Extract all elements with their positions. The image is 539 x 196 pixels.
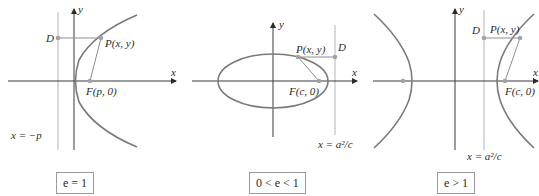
label-directrix: x = a²/c [466, 150, 502, 162]
x-axis-label: x [170, 66, 176, 78]
caption-hyperbola: e > 1 [437, 172, 475, 194]
ellipse-panel: y x P(x, y) D F(c, 0) x = a²/c [192, 18, 357, 150]
distance-PF [505, 38, 520, 81]
label-P: P(x, y) [295, 43, 326, 56]
caption-parabola: e = 1 [56, 172, 94, 194]
point-F [88, 79, 93, 84]
point-F [503, 79, 508, 84]
hyperbola-panel: y x D P(x, y) F(c, 0) x = a²/c [373, 3, 538, 162]
x-axis-label: x [532, 66, 538, 78]
label-D: D [337, 41, 346, 53]
y-axis-label: y [278, 18, 284, 30]
point-F [317, 79, 322, 84]
point-D [482, 36, 487, 41]
x-axis-label: x [351, 66, 357, 78]
point-P [518, 36, 523, 41]
point-D [56, 36, 61, 41]
point-P [99, 36, 104, 41]
label-P: P(x, y) [104, 37, 135, 50]
y-axis-label: y [458, 3, 464, 15]
label-D: D [471, 24, 480, 36]
point-P [296, 55, 301, 60]
label-focus: F(p, 0) [85, 85, 117, 98]
caption-ellipse: 0 < e < 1 [249, 172, 306, 194]
label-P: P(x, y) [489, 23, 520, 36]
label-focus: F(c, 0) [504, 85, 535, 98]
point-F-prime [401, 79, 406, 84]
label-focus: F(c, 0) [288, 85, 319, 98]
conic-sections-figure: y x D P(x, y) F(p, 0) x = −p y x P(x, y)… [0, 0, 539, 196]
label-directrix: x = −p [10, 129, 42, 141]
y-axis-label: y [77, 3, 83, 15]
point-D [333, 55, 338, 60]
parabola-panel: y x D P(x, y) F(p, 0) x = −p [8, 3, 176, 150]
label-D: D [45, 32, 54, 44]
label-directrix: x = a²/c [317, 138, 353, 150]
